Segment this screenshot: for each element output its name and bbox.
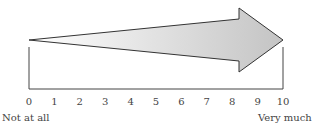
tick-label: 7 xyxy=(204,96,210,107)
tick-label: 3 xyxy=(102,96,108,107)
low-label: Not at all xyxy=(2,112,50,123)
tick-label: 9 xyxy=(254,96,260,107)
arrow-shape xyxy=(29,8,283,72)
tick-label: 10 xyxy=(277,96,290,107)
tick-label: 2 xyxy=(77,96,83,107)
tick-label: 6 xyxy=(178,96,184,107)
tick-label: 8 xyxy=(229,96,235,107)
tick-label: 1 xyxy=(51,96,57,107)
tick-label: 5 xyxy=(153,96,159,107)
high-label: Very much xyxy=(258,112,312,123)
tick-label: 4 xyxy=(127,96,133,107)
tick-label: 0 xyxy=(26,96,32,107)
